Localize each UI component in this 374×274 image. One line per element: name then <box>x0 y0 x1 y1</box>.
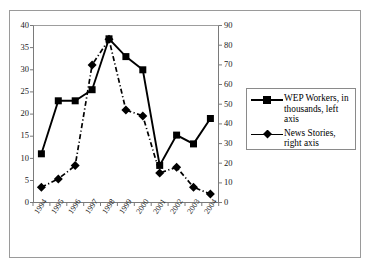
chart-legend: WEP Workers, in thousands, left axis New… <box>246 88 356 150</box>
y-axis-right-tick-90: 90 <box>224 21 233 30</box>
y-axis-left-tick-10: 10 <box>12 154 29 163</box>
y-axis-right-tick-20: 20 <box>224 159 233 168</box>
y-axis-right-tick-0: 0 <box>224 198 228 207</box>
y-axis-left-tick-35: 35 <box>12 43 29 52</box>
y-axis-left-tick-40: 40 <box>12 21 29 30</box>
plot-wrapper: 40 35 30 25 20 15 10 5 0 90 80 70 60 50 … <box>0 0 374 274</box>
legend-item-wep-workers: WEP Workers, in thousands, left axis <box>250 93 352 125</box>
y-axis-right-tick-60: 60 <box>224 80 233 89</box>
chart-screenshot: 40 35 30 25 20 15 10 5 0 90 80 70 60 50 … <box>0 0 374 274</box>
y-axis-right-tick-80: 80 <box>224 41 233 50</box>
legend-item-news-stories: News Stories, right axis <box>250 128 352 149</box>
y-axis-right-tick-10: 10 <box>224 178 233 187</box>
y-axis-right-ticks <box>219 26 222 203</box>
y-axis-left-tick-0: 0 <box>12 198 29 207</box>
y-axis-right-tick-50: 50 <box>224 100 233 109</box>
y-axis-right-tick-40: 40 <box>224 119 233 128</box>
y-axis-left-tick-25: 25 <box>12 87 29 96</box>
y-axis-left-tick-20: 20 <box>12 109 29 118</box>
y-axis-right-tick-70: 70 <box>224 60 233 69</box>
y-axis-left-tick-15: 15 <box>12 131 29 140</box>
y-axis-left-tick-5: 5 <box>12 176 29 185</box>
plot-area <box>33 25 219 203</box>
legend-key-square-icon <box>250 94 284 105</box>
y-axis-right-tick-30: 30 <box>224 139 233 148</box>
legend-label-news-stories: News Stories, right axis <box>284 128 352 149</box>
legend-key-diamond-icon <box>250 129 284 140</box>
legend-label-wep-workers: WEP Workers, in thousands, left axis <box>284 93 352 125</box>
y-axis-left-tick-30: 30 <box>12 65 29 74</box>
